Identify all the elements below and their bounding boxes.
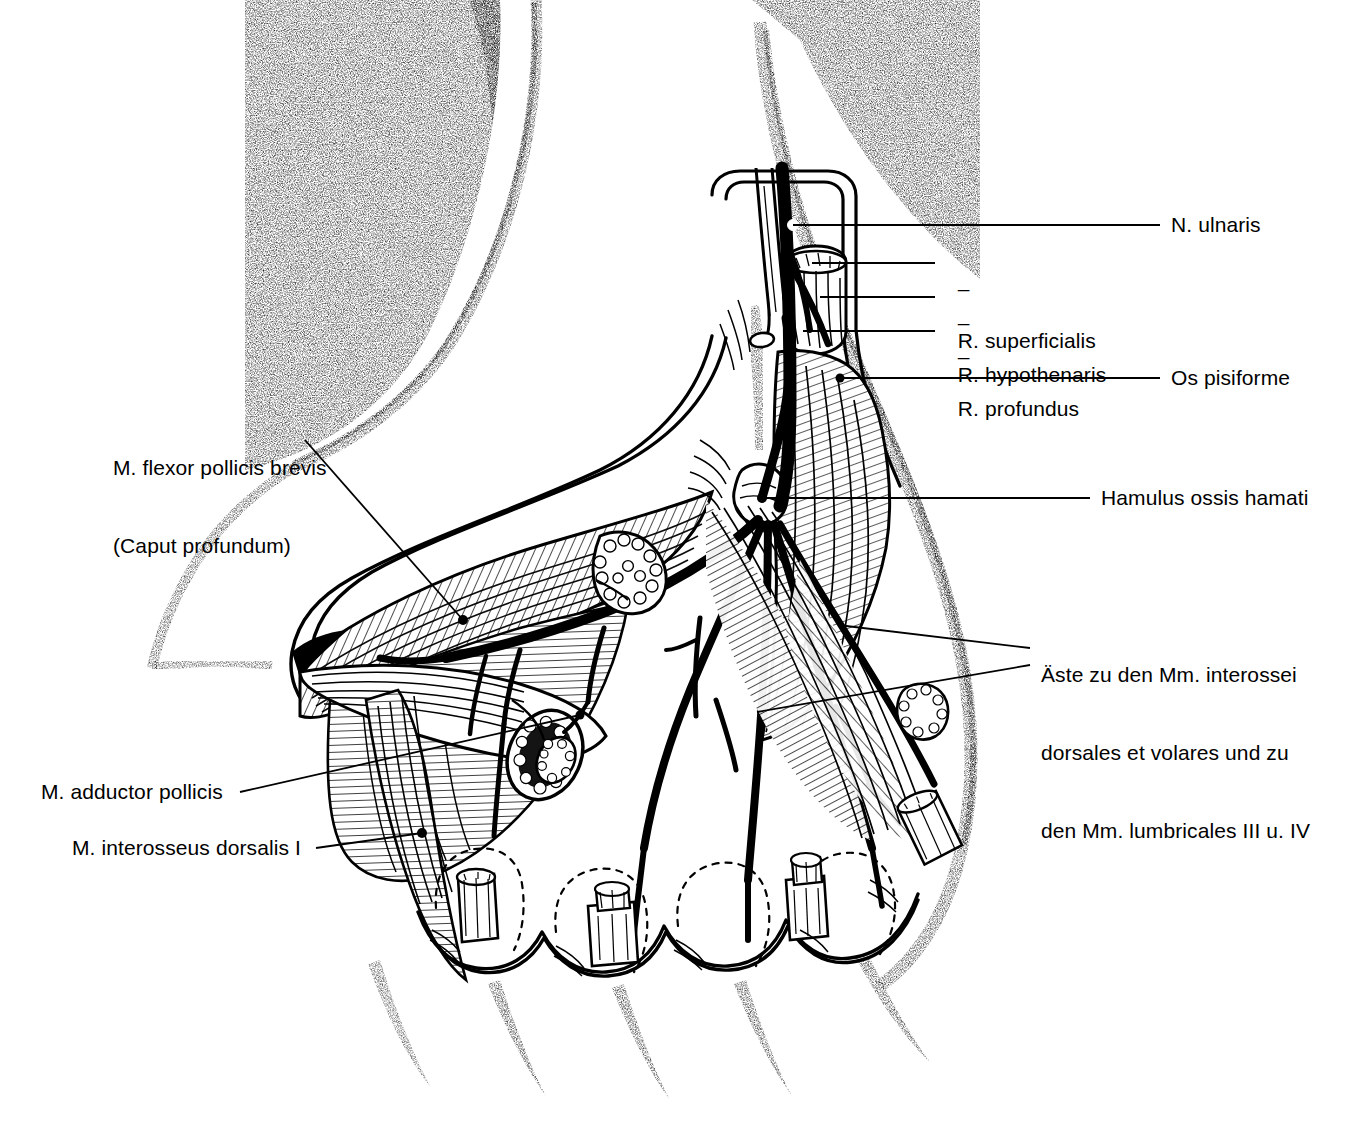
- label-flexor-pollicis-line1: M. flexor pollicis brevis: [113, 455, 327, 481]
- label-r-profundus: R. profundus: [958, 397, 1079, 420]
- label-aeste-line3: den Mm. lumbricales III u. IV: [1041, 818, 1310, 844]
- label-flexor-pollicis-line2: (Caput profundum): [113, 533, 327, 559]
- label-aeste-line1: Äste zu den Mm. interossei: [1041, 662, 1310, 688]
- label-hamulus-ossis-hamati: Hamulus ossis hamati: [1101, 485, 1308, 511]
- figure-canvas: N. ulnaris – R. superficialis – R. hypot…: [0, 0, 1349, 1132]
- adductor-dot: [576, 711, 585, 720]
- label-interosseus-dorsalis: M. interosseus dorsalis I: [72, 835, 301, 861]
- label-flexor-pollicis-block: M. flexor pollicis brevis (Caput profund…: [113, 403, 327, 611]
- label-r-profundus-row: – R. profundus: [934, 318, 1079, 448]
- flexor-pollicis-dot: [458, 615, 468, 625]
- label-os-pisiforme: Os pisiforme: [1171, 365, 1290, 391]
- label-n-ulnaris: N. ulnaris: [1171, 212, 1261, 238]
- hamulus-dot: [757, 493, 767, 503]
- interosseus-dot: [417, 828, 427, 838]
- label-adductor-pollicis: M. adductor pollicis: [41, 779, 223, 805]
- hypothenar-cut-stump: [897, 684, 948, 740]
- tendon-stump: [457, 869, 498, 942]
- dash-prefix-icon: –: [958, 345, 970, 368]
- tendon-stump: [786, 853, 828, 940]
- label-aeste-line2: dorsales et volares und zu: [1041, 740, 1310, 766]
- label-aeste-block: Äste zu den Mm. interossei dorsales et v…: [1041, 610, 1310, 896]
- os-pisiforme-dot: [836, 374, 845, 383]
